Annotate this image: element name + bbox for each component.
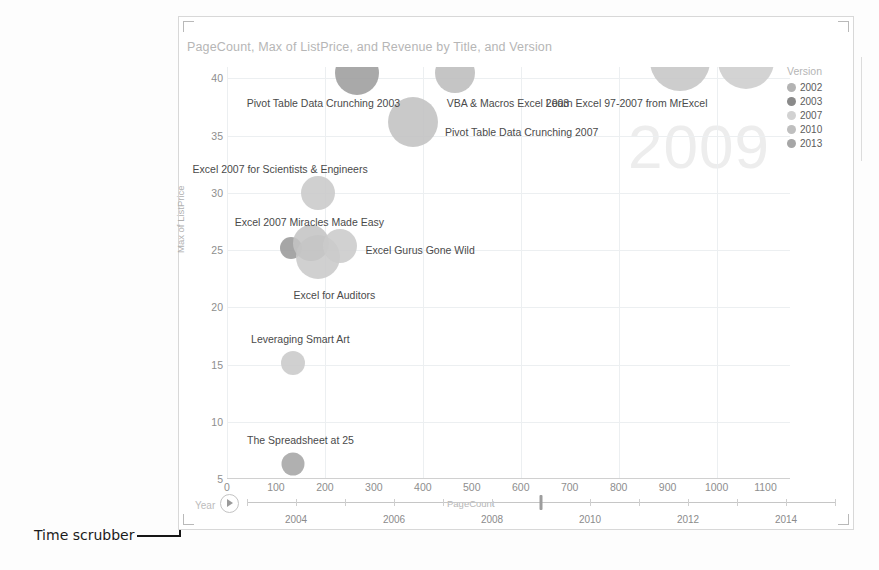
data-point-label: Excel for Auditors <box>294 289 376 301</box>
y-axis-ticks: 510152025303540 <box>197 67 223 479</box>
data-point-label: Excel Gurus Gone Wild <box>366 244 475 256</box>
data-bubble[interactable] <box>323 229 357 263</box>
data-bubble[interactable] <box>718 67 774 89</box>
scrubber-tick <box>394 499 395 506</box>
legend-swatch-icon <box>787 97 796 106</box>
x-axis-line <box>227 478 790 479</box>
legend-swatch-icon <box>787 111 796 120</box>
legend-item-label: 2007 <box>800 110 822 121</box>
chart-title: PageCount, Max of ListPrice, and Revenue… <box>187 40 552 54</box>
scrubber-tick <box>492 499 493 506</box>
scrubber-track[interactable]: 200420062008201020122014 <box>247 502 835 503</box>
data-bubble[interactable] <box>301 176 335 210</box>
gridline-horizontal <box>227 365 790 366</box>
legend: Version 20022003200720102013 <box>787 65 849 152</box>
data-bubble[interactable] <box>335 67 379 95</box>
play-icon[interactable] <box>220 494 239 513</box>
time-scrubber[interactable]: Year 200420062008201020122014 <box>187 491 847 533</box>
legend-swatch-icon <box>787 139 796 148</box>
gridline-horizontal <box>227 307 790 308</box>
year-watermark: 2009 <box>628 111 770 182</box>
y-axis-tick-label: 30 <box>211 187 223 199</box>
legend-item-2007[interactable]: 2007 <box>787 110 849 121</box>
legend-item-2010[interactable]: 2010 <box>787 124 849 135</box>
scrubber-tick-label: 2010 <box>579 514 601 525</box>
scrubber-tick-label: 2004 <box>285 514 307 525</box>
scrubber-tick <box>786 499 787 506</box>
frame-corner-top-right <box>838 21 849 32</box>
legend-item-2002[interactable]: 2002 <box>787 82 849 93</box>
legend-item-label: 2013 <box>800 138 822 149</box>
data-point-label: Pivot Table Data Crunching 2003 <box>247 97 400 109</box>
data-bubble[interactable] <box>435 67 475 93</box>
scrubber-tick <box>443 499 444 506</box>
legend-item-2013[interactable]: 2013 <box>787 138 849 149</box>
annotation-time-scrubber: Time scrubber <box>34 527 134 543</box>
y-axis-tick-label: 15 <box>211 359 223 371</box>
gridline-horizontal <box>227 422 790 423</box>
y-axis-tick-label: 35 <box>211 130 223 142</box>
data-point-label: Excel 2007 Miracles Made Easy <box>235 216 384 228</box>
annotation-leader-line-horizontal <box>137 535 181 537</box>
report-frame: PageCount, Max of ListPrice, and Revenue… <box>178 16 854 530</box>
data-bubble[interactable] <box>281 351 305 375</box>
legend-item-2003[interactable]: 2003 <box>787 96 849 107</box>
y-axis-tick-label: 40 <box>211 72 223 84</box>
frame-corner-top-left <box>183 21 194 32</box>
scrubber-tick <box>835 499 836 506</box>
scrubber-tick <box>737 499 738 506</box>
data-point-label: Pivot Table Data Crunching 2007 <box>445 126 598 138</box>
scrubber-tick <box>247 499 248 506</box>
scrubber-tick-label: 2012 <box>677 514 699 525</box>
data-point-label: The Spreadsheet at 25 <box>247 434 354 446</box>
gridline-vertical <box>619 67 620 479</box>
gridline-vertical <box>717 67 718 479</box>
legend-items: 20022003200720102013 <box>787 82 849 149</box>
plot-wrapper: 2009 Pivot Table Data Crunching 2003VBA … <box>227 67 790 479</box>
data-point-label: Leveraging Smart Art <box>251 333 350 345</box>
y-axis-tick-label: 10 <box>211 416 223 428</box>
y-axis-tick-label: 20 <box>211 301 223 313</box>
gridline-horizontal <box>227 78 790 79</box>
data-point-label: Excel 2007 for Scientists & Engineers <box>193 163 368 175</box>
legend-item-label: 2010 <box>800 124 822 135</box>
legend-item-label: 2002 <box>800 82 822 93</box>
legend-swatch-icon <box>787 125 796 134</box>
scrubber-tick-label: 2006 <box>383 514 405 525</box>
scrubber-tick <box>296 499 297 506</box>
data-bubble[interactable] <box>282 453 305 476</box>
gridline-vertical <box>227 67 228 479</box>
legend-divider <box>861 57 862 161</box>
legend-swatch-icon <box>787 83 796 92</box>
scrubber-handle[interactable] <box>540 495 543 510</box>
y-axis-tick-label: 5 <box>217 473 223 485</box>
scrubber-year-label: Year <box>195 500 215 511</box>
scrubber-tick <box>590 499 591 506</box>
y-axis-label: Max of ListPrice <box>175 185 186 253</box>
legend-item-label: 2003 <box>800 96 822 107</box>
legend-title: Version <box>787 65 849 77</box>
y-axis-tick-label: 25 <box>211 244 223 256</box>
scrubber-tick-label: 2008 <box>481 514 503 525</box>
scrubber-tick <box>688 499 689 506</box>
scrubber-tick-label: 2014 <box>775 514 797 525</box>
scrubber-tick <box>639 499 640 506</box>
data-point-label: Learn Excel 97-2007 from MrExcel <box>546 97 708 109</box>
data-bubble[interactable] <box>650 67 710 91</box>
scrubber-tick <box>345 499 346 506</box>
